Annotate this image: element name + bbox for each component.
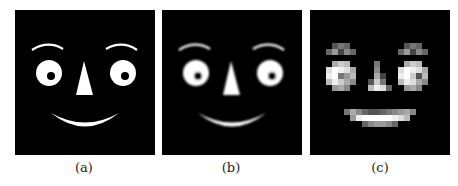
left-eyebrow	[179, 45, 210, 50]
left-eyebrow	[326, 43, 356, 55]
face-blurred	[162, 10, 302, 155]
left-pupil	[47, 72, 55, 80]
nose	[76, 61, 93, 95]
nose	[368, 61, 392, 91]
right-eyebrow	[106, 45, 137, 50]
right-pupil	[268, 72, 276, 80]
panel-b	[162, 10, 302, 155]
mouth	[51, 113, 119, 127]
nose	[223, 61, 240, 95]
caption-a: (a)	[54, 160, 114, 175]
right-eyebrow	[253, 45, 284, 50]
caption-b: (b)	[201, 160, 261, 175]
panel-c	[310, 10, 450, 155]
mouth	[344, 109, 416, 127]
right-eye	[398, 61, 428, 91]
right-pupil	[121, 72, 129, 80]
panel-a	[15, 10, 155, 155]
left-pupil	[194, 72, 202, 80]
face-sharp	[15, 10, 155, 155]
left-eye	[326, 61, 356, 91]
face-pixelated	[310, 10, 450, 155]
mouth	[198, 113, 266, 127]
caption-c: (c)	[350, 160, 410, 175]
right-eyebrow	[398, 43, 428, 55]
left-eyebrow	[32, 45, 63, 50]
